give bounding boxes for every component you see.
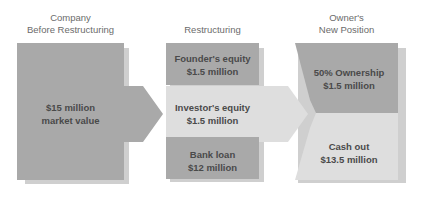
investor-value: $1.5 million — [166, 114, 259, 127]
header-new-position-line2: New Position — [295, 24, 398, 36]
before-label: $15 million market value — [17, 101, 124, 127]
founder-title: Founder's equity — [166, 52, 259, 65]
investor-label: Investor's equity $1.5 million — [166, 101, 259, 127]
header-restructuring-line: Restructuring — [166, 24, 259, 36]
before-caption: market value — [17, 114, 124, 127]
bank-loan-title: Bank loan — [166, 148, 259, 161]
header-before-line1: Company — [17, 12, 124, 24]
bank-loan-label: Bank loan $12 million — [166, 148, 259, 174]
before-value: $15 million — [17, 101, 124, 114]
header-before-line2: Before Restructuring — [17, 24, 124, 36]
ownership-title: 50% Ownership — [300, 66, 398, 79]
bank-loan-value: $12 million — [166, 161, 259, 174]
founder-value: $1.5 million — [166, 65, 259, 78]
founder-label: Founder's equity $1.5 million — [166, 52, 259, 78]
cash-out-title: Cash out — [300, 140, 398, 153]
header-new-position: Owner's New Position — [295, 12, 398, 36]
ownership-value: $1.5 million — [300, 79, 398, 92]
header-before: Company Before Restructuring — [17, 12, 124, 36]
header-restructuring: Restructuring — [166, 24, 259, 36]
cash-out-value: $13.5 million — [300, 153, 398, 166]
cash-out-label: Cash out $13.5 million — [300, 140, 398, 166]
ownership-label: 50% Ownership $1.5 million — [300, 66, 398, 92]
investor-title: Investor's equity — [166, 101, 259, 114]
header-new-position-line1: Owner's — [295, 12, 398, 24]
